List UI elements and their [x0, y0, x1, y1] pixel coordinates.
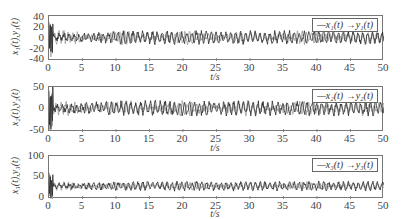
legend-3: —x₃(t) →y₃(t)	[312, 158, 378, 172]
x-tick: 35	[273, 200, 293, 211]
x-tick: 15	[139, 200, 159, 211]
y-tick: 100	[14, 150, 44, 161]
x-tick: 0	[38, 200, 58, 211]
x-tick: 10	[105, 200, 125, 211]
plot-area-3: —x₃(t) →y₃(t)	[48, 155, 383, 198]
y-tick: 50	[14, 170, 44, 181]
x-tick: 5	[72, 200, 92, 211]
x-tick: 20	[172, 200, 192, 211]
x-tick: 40	[306, 200, 326, 211]
panel-3: x₃(t),y₃(t) 100 50 0 —x₃(t) →y₃(t) 05101…	[0, 0, 404, 219]
x-tick: 45	[340, 200, 360, 211]
x-tick: 30	[239, 200, 259, 211]
x-axis-label-3: t/s	[205, 208, 225, 219]
x-ticks-3: 05101520253035404550	[0, 200, 404, 212]
x-tick: 50	[373, 200, 393, 211]
